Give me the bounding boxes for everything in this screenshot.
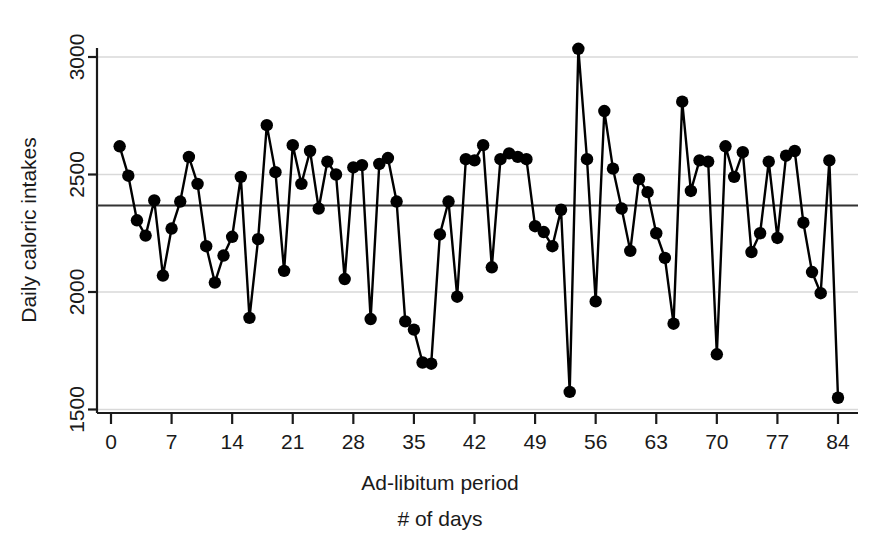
x-tick-label-28: 28 <box>342 430 365 453</box>
data-point <box>763 155 775 167</box>
data-point <box>676 95 688 107</box>
data-point <box>235 171 247 183</box>
data-point <box>243 312 255 324</box>
data-point <box>737 146 749 158</box>
data-point <box>191 178 203 190</box>
data-point <box>442 195 454 207</box>
data-point <box>113 140 125 152</box>
data-point <box>711 348 723 360</box>
x-tick-label-70: 70 <box>705 430 728 453</box>
data-point <box>719 140 731 152</box>
y-tick-label-1500: 1500 <box>65 386 88 433</box>
x-tick-label-21: 21 <box>281 430 304 453</box>
data-point <box>252 233 264 245</box>
data-point <box>139 229 151 241</box>
data-point <box>624 245 636 257</box>
x-tick-label-63: 63 <box>645 430 668 453</box>
x-tick-label-49: 49 <box>523 430 546 453</box>
data-point <box>468 154 480 166</box>
data-point <box>520 153 532 165</box>
data-point <box>434 228 446 240</box>
data-point <box>200 240 212 252</box>
x-tick-label-7: 7 <box>166 430 178 453</box>
data-point <box>615 202 627 214</box>
data-point <box>641 186 653 198</box>
data-point <box>823 154 835 166</box>
chart-figure: 1500200025003000 07142128354249566370778… <box>0 0 883 554</box>
data-point <box>789 145 801 157</box>
data-point <box>650 227 662 239</box>
data-point <box>486 261 498 273</box>
data-point <box>209 276 221 288</box>
data-point <box>304 145 316 157</box>
x-tick-label-14: 14 <box>220 430 244 453</box>
chart-svg: 1500200025003000 07142128354249566370778… <box>0 0 883 554</box>
x-tick-label-42: 42 <box>463 430 486 453</box>
data-point <box>685 185 697 197</box>
data-point <box>425 357 437 369</box>
x-axis-title: Ad-libitum period <box>361 471 519 494</box>
data-point <box>771 232 783 244</box>
data-point <box>131 214 143 226</box>
x-tick-label-0: 0 <box>105 430 117 453</box>
data-point <box>408 323 420 335</box>
data-point <box>330 168 342 180</box>
data-point <box>390 195 402 207</box>
data-point <box>538 226 550 238</box>
data-point <box>287 139 299 151</box>
data-point <box>754 227 766 239</box>
data-point <box>183 151 195 163</box>
data-point <box>797 216 809 228</box>
data-point <box>278 265 290 277</box>
data-point <box>338 273 350 285</box>
data-point <box>364 313 376 325</box>
data-point <box>122 169 134 181</box>
data-point <box>477 139 489 151</box>
data-point <box>745 246 757 258</box>
data-point <box>572 43 584 55</box>
data-point <box>832 392 844 404</box>
y-axis-title: Daily caloric intakes <box>17 137 40 323</box>
data-point <box>165 222 177 234</box>
data-point <box>633 173 645 185</box>
x-tick-label-56: 56 <box>584 430 607 453</box>
data-point <box>321 155 333 167</box>
x-tick-label-35: 35 <box>402 430 425 453</box>
data-point <box>581 153 593 165</box>
data-point <box>157 269 169 281</box>
x-tick-label-84: 84 <box>826 430 850 453</box>
y-tick-label-2000: 2000 <box>65 269 88 316</box>
data-point <box>555 204 567 216</box>
x-tick-label-77: 77 <box>766 430 789 453</box>
data-point <box>728 171 740 183</box>
data-point <box>226 231 238 243</box>
data-point <box>607 162 619 174</box>
data-point <box>174 195 186 207</box>
data-point <box>451 291 463 303</box>
data-point <box>589 295 601 307</box>
data-point <box>702 155 714 167</box>
data-point <box>261 119 273 131</box>
data-point <box>295 178 307 190</box>
y-tick-label-3000: 3000 <box>65 34 88 81</box>
y-tick-label-2500: 2500 <box>65 151 88 198</box>
data-point <box>217 249 229 261</box>
data-point <box>313 202 325 214</box>
data-point <box>564 386 576 398</box>
data-point <box>269 166 281 178</box>
data-point <box>659 252 671 264</box>
data-point <box>667 318 679 330</box>
data-point <box>598 105 610 117</box>
data-point <box>382 152 394 164</box>
x-axis-subtitle: # of days <box>397 507 482 530</box>
data-point <box>814 287 826 299</box>
data-point <box>546 240 558 252</box>
data-point <box>356 159 368 171</box>
data-point <box>148 194 160 206</box>
data-point <box>806 266 818 278</box>
